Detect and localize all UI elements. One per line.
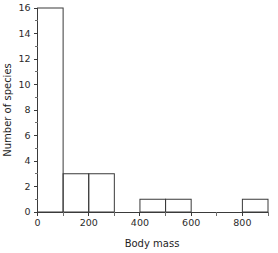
y-tick-label: 6 (24, 130, 30, 141)
y-tick-label: 8 (24, 104, 30, 115)
chart-background (0, 0, 278, 253)
y-tick-label: 4 (24, 155, 30, 166)
x-axis-title: Body mass (125, 238, 180, 249)
y-tick-label: 10 (18, 79, 30, 90)
x-tick-label: 0 (34, 217, 40, 228)
y-tick-label: 2 (24, 181, 30, 192)
x-tick-label: 800 (233, 217, 251, 228)
x-tick-label: 400 (131, 217, 149, 228)
x-tick-label: 200 (80, 217, 98, 228)
y-tick-label: 16 (18, 2, 30, 13)
y-tick-label: 14 (18, 28, 30, 39)
y-axis-title: Number of species (2, 63, 13, 157)
y-tick-label: 12 (18, 53, 30, 64)
y-tick-label: 0 (24, 206, 30, 217)
x-tick-label: 600 (182, 217, 200, 228)
histogram-chart: 0246810121416 0200400600800 Number of sp… (0, 0, 278, 253)
histogram-figure: 0246810121416 0200400600800 Number of sp… (0, 0, 278, 253)
